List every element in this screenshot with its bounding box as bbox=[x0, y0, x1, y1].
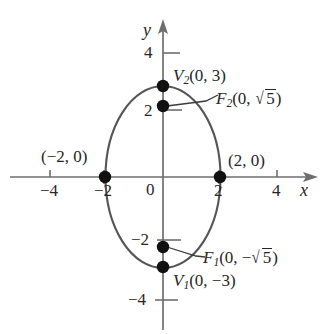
focus-top-leader-line bbox=[167, 95, 218, 106]
focus-bottom-name: F bbox=[203, 248, 213, 267]
focus-bottom-suffix: ) bbox=[272, 248, 278, 267]
y-tick-label-minus4: −4 bbox=[128, 291, 146, 308]
vertex-bottom-label: V1(0, −3) bbox=[173, 272, 236, 292]
focus-bottom-label: F1(0, −√5) bbox=[203, 248, 278, 269]
focus-top-name: F bbox=[216, 89, 226, 108]
focus-bottom-radicand: 5 bbox=[262, 248, 273, 266]
vertex-bottom-coords: (0, −3) bbox=[189, 271, 235, 290]
vertex-top-coords: (0, 3) bbox=[189, 66, 226, 85]
focus-bottom-prefix: (0, − bbox=[219, 248, 251, 267]
x-tick-label-2: 2 bbox=[214, 182, 223, 199]
point-vertex-top bbox=[157, 80, 169, 92]
x-tick-label-minus2: −2 bbox=[94, 182, 112, 199]
x-tick-label-minus4: −4 bbox=[40, 182, 58, 199]
ellipse-graph-figure: y x 0 −4 −2 2 4 4 2 −2 −4 V2(0, 3) F2(0,… bbox=[0, 0, 324, 334]
x-tick-label-4: 4 bbox=[272, 182, 281, 199]
point-focus-top bbox=[157, 100, 169, 112]
vertex-bottom-name: V bbox=[173, 271, 183, 290]
covertex-left-label: (−2, 0) bbox=[41, 148, 87, 165]
radical-sign-icon-bottom: √ bbox=[252, 249, 260, 266]
focus-top-suffix: ) bbox=[276, 89, 282, 108]
y-tick-label-minus2: −2 bbox=[131, 231, 149, 248]
origin-label: 0 bbox=[146, 181, 155, 198]
vertex-top-name: V bbox=[173, 66, 183, 85]
radical-sign-icon: √ bbox=[256, 90, 264, 107]
graph-canvas bbox=[0, 0, 324, 334]
focus-top-label: F2(0, √5) bbox=[216, 89, 281, 110]
point-vertex-bottom bbox=[157, 261, 169, 273]
covertex-right-label: (2, 0) bbox=[228, 152, 265, 169]
x-axis-label: x bbox=[300, 181, 308, 199]
y-axis-label: y bbox=[143, 21, 151, 39]
focus-top-prefix: (0, bbox=[232, 89, 255, 108]
vertex-top-label: V2(0, 3) bbox=[173, 67, 226, 87]
y-tick-label-2: 2 bbox=[144, 102, 153, 119]
y-tick-label-4: 4 bbox=[144, 44, 153, 61]
point-focus-bottom bbox=[157, 241, 169, 253]
focus-top-radicand: 5 bbox=[265, 89, 276, 107]
